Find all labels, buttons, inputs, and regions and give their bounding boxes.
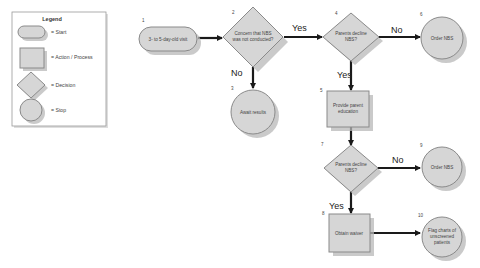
edge-label-2-4: Yes <box>292 23 307 33</box>
edge-label-7-9: No <box>392 155 404 165</box>
node-3-label: Await results <box>240 110 267 115</box>
legend-label-action: = Action / Process <box>51 54 93 60</box>
node-2-label-line2: was not conducted? <box>233 37 274 42</box>
edge-label-7-8: Yes <box>329 201 344 211</box>
node-1-number: 1 <box>142 18 145 23</box>
edge-label-4-5: Yes <box>337 70 352 80</box>
node-2-label-line1: Concern that NBS <box>234 31 271 36</box>
node-6-label: Order NBS <box>431 36 453 41</box>
node-10-label-line1: Flag charts of <box>428 228 457 233</box>
node-2-decision[interactable]: 2 Concern that NBS was not conducted? <box>223 7 288 72</box>
node-5-label-line1: Provide parent <box>333 103 364 108</box>
node-3-number: 3 <box>231 86 234 91</box>
legend-box: Legend = Start = Action / Process = Deci… <box>12 12 108 128</box>
node-7-label-line1: Parents decline <box>335 162 367 167</box>
node-4-label-line2: NBS? <box>345 37 357 42</box>
legend-title: Legend <box>42 16 62 22</box>
flowchart-canvas: Legend = Start = Action / Process = Deci… <box>0 0 480 268</box>
legend-start-icon <box>18 26 48 41</box>
node-5-label-line2: education <box>338 109 358 114</box>
node-5-number: 5 <box>320 88 323 93</box>
node-10-stop[interactable]: 10 Flag charts of unscreened patients <box>418 213 466 261</box>
node-9-stop[interactable]: 9 Order NBS <box>420 143 466 191</box>
node-5-action[interactable]: 5 Provide parent education <box>320 88 373 131</box>
node-4-number: 4 <box>335 11 338 16</box>
node-6-stop[interactable]: 6 Order NBS <box>420 12 467 63</box>
node-8-number: 8 <box>322 211 325 216</box>
node-1-label: 3- to 5-day-old visit <box>149 37 189 42</box>
node-6-number: 6 <box>420 12 423 17</box>
node-9-number: 9 <box>420 143 423 148</box>
node-2-number: 2 <box>232 10 235 15</box>
legend-action-icon <box>20 48 47 71</box>
legend-label-stop: = Stop <box>51 107 66 113</box>
node-4-label-line1: Parents decline <box>335 31 367 36</box>
node-8-action[interactable]: 8 Obtain waiver <box>322 211 374 256</box>
node-1-start[interactable]: 1 3- to 5-day-old visit <box>139 18 201 55</box>
node-7-decision[interactable]: 7 Parents decline NBS? <box>321 142 382 196</box>
node-3-stop[interactable]: 3 Await results <box>231 86 279 138</box>
node-7-number: 7 <box>321 142 324 147</box>
node-9-label: Order NBS <box>431 165 453 170</box>
edge-label-4-6: No <box>391 25 403 35</box>
node-8-label: Obtain waiver <box>335 231 364 236</box>
node-10-number: 10 <box>418 213 424 218</box>
edge-label-2-3: No <box>231 68 243 78</box>
edges: No Yes No Yes No Yes <box>198 23 420 233</box>
node-10-label-line2: unscreened <box>430 234 454 239</box>
node-7-label-line2: NBS? <box>345 168 357 173</box>
node-10-label-line3: patients <box>434 240 451 245</box>
legend-label-decision: = Decision <box>51 82 75 88</box>
legend-label-start: = Start <box>51 29 67 35</box>
node-4-decision[interactable]: 4 Parents decline NBS? <box>323 11 383 65</box>
